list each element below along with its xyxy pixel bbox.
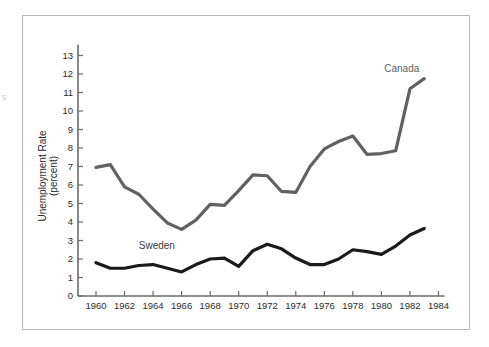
y-tick-label-12: 12	[62, 68, 73, 79]
y-axis-title-line2: (percent)	[48, 156, 59, 196]
y-axis-title-line1: Unemployment Rate	[37, 130, 48, 222]
series-label-canada: Canada	[384, 63, 419, 74]
y-tick-label-9: 9	[68, 124, 73, 135]
unemployment-line-chart: 0123456789101112131960196219641966196819…	[0, 0, 489, 347]
y-tick-label-1: 1	[68, 272, 73, 283]
x-tick-label-1974: 1974	[285, 300, 306, 311]
x-tick-label-1980: 1980	[371, 300, 392, 311]
x-tick-label-1964: 1964	[143, 300, 164, 311]
x-tick-label-1968: 1968	[200, 300, 221, 311]
x-tick-label-1984: 1984	[428, 300, 449, 311]
chart-plot-area: 0123456789101112131960196219641966196819…	[0, 0, 489, 347]
x-tick-label-1970: 1970	[228, 300, 249, 311]
y-tick-label-0: 0	[68, 290, 73, 301]
y-tick-label-2: 2	[68, 253, 73, 264]
y-tick-label-7: 7	[68, 161, 73, 172]
series-label-sweden: Sweden	[139, 240, 175, 251]
x-tick-label-1972: 1972	[257, 300, 278, 311]
x-tick-label-1978: 1978	[342, 300, 363, 311]
y-tick-label-8: 8	[68, 142, 73, 153]
y-tick-label-13: 13	[62, 50, 73, 61]
y-tick-label-5: 5	[68, 198, 73, 209]
y-tick-label-11: 11	[63, 87, 73, 98]
y-tick-label-3: 3	[68, 235, 73, 246]
figure-root: s 01234567891011121319601962196419661968…	[0, 0, 489, 347]
y-tick-label-10: 10	[62, 105, 73, 116]
x-tick-label-1966: 1966	[171, 300, 192, 311]
y-tick-label-4: 4	[68, 216, 73, 227]
x-tick-label-1976: 1976	[314, 300, 335, 311]
y-tick-label-6: 6	[68, 179, 73, 190]
x-tick-label-1982: 1982	[399, 300, 420, 311]
y-axis-title: Unemployment Rate(percent)	[37, 130, 59, 222]
x-tick-label-1962: 1962	[114, 300, 135, 311]
series-line-canada	[96, 79, 424, 230]
x-tick-label-1960: 1960	[85, 300, 106, 311]
